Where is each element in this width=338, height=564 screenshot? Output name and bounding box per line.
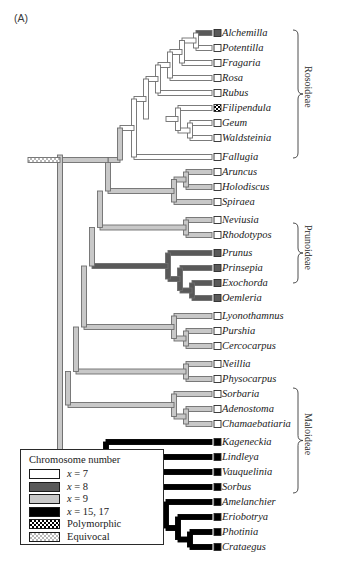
legend-swatch-x7 [29, 469, 60, 479]
taxon-label-waldsteinia: Waldsteinia [222, 132, 271, 143]
tip-marker-eriobotrya [214, 514, 221, 521]
tip-marker-prunus [214, 250, 221, 257]
terminal-branch-aruncus [186, 170, 212, 175]
taxon-label-physocarpus: Physocarpus [222, 373, 276, 384]
branch-segment [100, 225, 186, 230]
node-connector [74, 327, 79, 372]
terminal-branch-rubus [158, 91, 212, 96]
legend-label-x9: x = 9 [67, 493, 88, 504]
taxon-label-amelanchier: Amelanchier [222, 496, 276, 507]
terminal-branch-fallugia [134, 155, 212, 160]
taxon-label-cercocarpus: Cercocarpus [222, 340, 276, 351]
taxon-label-aruncus: Aruncus [222, 166, 257, 177]
terminal-branch-adenostoma [186, 407, 212, 412]
taxon-label-exochorda: Exochorda [222, 277, 268, 288]
terminal-branch-eriobotrya [178, 515, 212, 520]
taxon-label-rosa: Rosa [222, 72, 243, 83]
terminal-branch-crataegus [190, 545, 212, 550]
taxon-label-rhodotypos: Rhodotypos [222, 229, 272, 240]
legend-swatch-x9 [29, 494, 60, 504]
branch-segment [166, 117, 178, 122]
terminal-branch-oemleria [192, 296, 212, 301]
taxon-label-fragaria: Fragaria [222, 57, 261, 68]
tip-marker-amelanchier [214, 499, 221, 506]
tip-marker-crataegus [214, 544, 221, 551]
terminal-branch-spiraea [174, 200, 212, 205]
node-connector [82, 266, 87, 327]
tree-tip-markers [214, 30, 221, 551]
taxon-label-geum: Geum [222, 117, 247, 128]
tip-marker-filipendula [214, 105, 221, 112]
terminal-branch-chamaebatiaria [186, 422, 212, 427]
legend-label-x15-17: x = 15, 17 [67, 506, 109, 517]
tip-marker-lyonothamnus [214, 313, 221, 320]
node-connector [106, 160, 111, 191]
legend-swatch-x15-17 [29, 507, 60, 517]
terminal-branch-photinia [190, 530, 212, 535]
terminal-branch-lyonothamnus [174, 314, 212, 319]
tip-marker-oemleria [214, 295, 221, 302]
terminal-branch-filipendula [178, 106, 212, 111]
taxon-label-fallugia: Fallugia [222, 151, 258, 162]
branch-segment [76, 369, 186, 374]
taxon-label-lindleya: Lindleya [222, 451, 259, 462]
taxon-label-sorbaria: Sorbaria [222, 388, 259, 399]
tip-marker-alchemilla [214, 30, 221, 37]
branch-segment [84, 325, 174, 330]
taxon-label-oemleria: Oemleria [222, 292, 262, 303]
legend-swatch-polymorphic [29, 519, 60, 529]
taxon-label-sorbus: Sorbus [222, 481, 251, 492]
bracket-prunoideae [293, 223, 303, 283]
bracket-maloideae-label: Maloideae [303, 413, 314, 455]
bracket-rosoideae [293, 30, 303, 158]
branch-segment [68, 403, 174, 408]
tip-marker-geum [214, 120, 221, 127]
phylogenetic-tree-figure: (A) AlchemillaPotentillaFragariaRosaRubu… [0, 0, 338, 564]
taxon-label-kageneckia: Kageneckia [222, 436, 272, 447]
taxon-label-vauquelinia: Vauquelinia [222, 466, 272, 477]
tip-marker-rosa [214, 75, 221, 82]
tip-marker-neviusia [214, 217, 221, 224]
legend-box: Chromosome number x = 7x = 8x = 9x = 15,… [20, 449, 164, 545]
tip-marker-kageneckia [214, 439, 221, 446]
root-spine [58, 155, 63, 457]
taxon-label-lyonothamnus: Lyonothamnus [222, 310, 284, 321]
taxon-label-prinsepia: Prinsepia [222, 262, 263, 273]
tip-marker-holodiscus [214, 184, 221, 191]
tip-marker-neillia [214, 361, 221, 368]
terminal-branch-prinsepia [180, 266, 212, 271]
terminal-branch-geum [190, 121, 212, 126]
tip-marker-adenostoma [214, 406, 221, 413]
legend-title: Chromosome number [29, 454, 120, 465]
taxon-label-neillia: Neillia [222, 358, 251, 369]
branch-segment [92, 264, 168, 269]
tip-marker-fallugia [214, 154, 221, 161]
tip-marker-prinsepia [214, 265, 221, 272]
terminal-branch-rosa [170, 76, 212, 81]
terminal-branch-neillia [186, 362, 212, 367]
bracket-maloideae [293, 388, 303, 493]
tip-marker-sorbus [214, 484, 221, 491]
taxon-label-prunus: Prunus [222, 247, 252, 258]
taxon-label-crataegus: Crataegus [222, 541, 266, 552]
taxon-label-photinia: Photinia [222, 526, 258, 537]
branch-segment [108, 189, 174, 194]
taxon-label-adenostoma: Adenostoma [222, 403, 274, 414]
terminal-branch-exochorda [192, 281, 212, 286]
taxon-label-rubus: Rubus [222, 87, 248, 98]
taxon-label-spiraea: Spiraea [222, 196, 255, 207]
tip-marker-aruncus [214, 169, 221, 176]
taxon-label-chamaebatiaria: Chamaebatiaria [222, 418, 291, 429]
terminal-branch-amelanchier [166, 500, 212, 505]
node-connector [98, 191, 103, 228]
terminal-branch-waldsteinia [190, 136, 212, 141]
tip-marker-spiraea [214, 199, 221, 206]
tip-marker-photinia [214, 529, 221, 536]
tip-marker-rhodotypos [214, 232, 221, 239]
node-connector [118, 128, 123, 160]
bracket-rosoideae-label: Rosoideae [303, 66, 314, 108]
tip-marker-lindleya [214, 454, 221, 461]
taxon-label-alchemilla: Alchemilla [222, 27, 268, 38]
taxon-label-potentilla: Potentilla [222, 42, 263, 53]
terminal-branch-sorbaria [174, 392, 212, 397]
